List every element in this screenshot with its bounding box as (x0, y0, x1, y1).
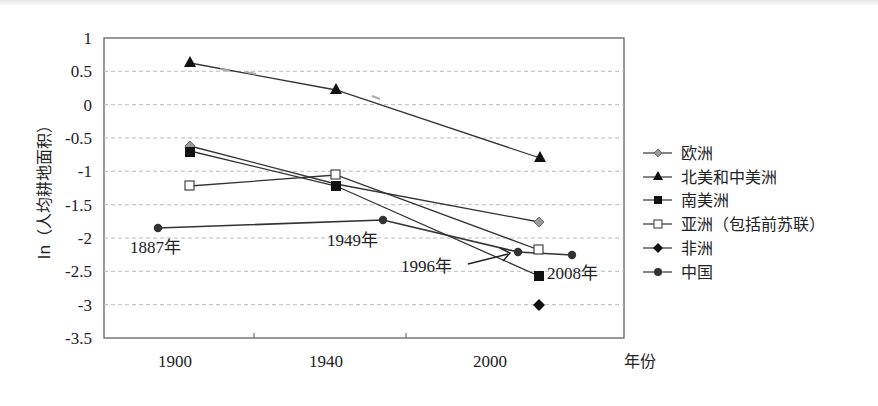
y-tick: -3 (78, 296, 92, 315)
y-tick: -2.5 (65, 262, 92, 281)
legend-item-china: 中国 (643, 263, 713, 282)
svg-text:亚洲（包括前苏联）: 亚洲（包括前苏联） (681, 215, 825, 234)
y-axis-tick-labels: 1 0.5 0 -0.5 -1 -1.5 -2 -2.5 -3 -3.5 (65, 29, 92, 348)
y-tick: 0.5 (71, 62, 92, 81)
annotation-1996: 1996年 (401, 257, 452, 276)
svg-text:非洲: 非洲 (681, 239, 713, 258)
x-tick: 1900 (158, 352, 192, 371)
legend-item-africa: 非洲 (643, 239, 713, 258)
svg-text:欧洲: 欧洲 (681, 144, 713, 163)
y-tick: 1 (84, 29, 93, 48)
plot-area (104, 38, 624, 338)
svg-text:北美和中美洲: 北美和中美洲 (681, 168, 777, 187)
x-axis-label: 年份 (624, 352, 656, 371)
legend-item-south-america: 南美洲 (643, 191, 729, 210)
y-tick: -2 (78, 229, 92, 248)
legend: 欧洲 北美和中美洲 南美洲 亚洲（包括前苏联） 非洲 中国 (643, 144, 825, 282)
legend-item-europe: 欧洲 (643, 144, 713, 163)
legend-item-north-central-america: 北美和中美洲 (643, 168, 777, 187)
y-tick: -1.5 (65, 196, 92, 215)
y-tick: 0 (84, 96, 93, 115)
svg-text:南美洲: 南美洲 (681, 191, 729, 210)
y-tick: -1 (78, 162, 92, 181)
annotation-2008: 2008年 (547, 264, 598, 283)
y-tick: -0.5 (65, 129, 92, 148)
circle-icon (654, 268, 662, 276)
y-tick: -3.5 (65, 329, 92, 348)
x-axis-tick-labels: 1900 1940 2000 (158, 352, 507, 371)
diamond-gray-icon (654, 149, 662, 157)
diamond-filled-icon (653, 243, 663, 253)
line-chart: 1 0.5 0 -0.5 -1 -1.5 -2 -2.5 -3 -3.5 190… (0, 0, 878, 406)
annotation-1949: 1949年 (327, 231, 378, 250)
svg-text:中国: 中国 (681, 263, 713, 282)
y-axis-label: ln（人均耕地面积） (35, 117, 54, 260)
annotation-1887: 1887年 (130, 238, 181, 257)
triangle-icon (653, 171, 663, 180)
square-filled-icon (654, 196, 662, 204)
square-open-icon (654, 220, 662, 228)
legend-item-asia: 亚洲（包括前苏联） (643, 215, 825, 234)
x-tick: 1940 (309, 352, 343, 371)
x-tick: 2000 (473, 352, 507, 371)
